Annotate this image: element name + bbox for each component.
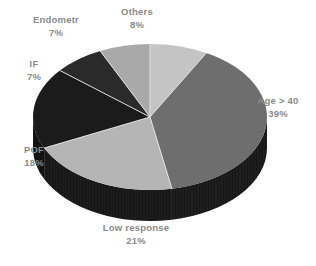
pie-label-age-over-40: Age > 40 39% (240, 95, 316, 120)
pie-label-if: IF 7% (0, 58, 70, 83)
pie-label-pof-percent: 18% (0, 157, 72, 170)
pie-label-low-response-name: Low response (84, 222, 188, 235)
pie-label-endometr: Endometr 7% (8, 14, 104, 39)
pie-label-others-percent: 8% (94, 19, 180, 32)
pie-label-pof-name: POF (0, 144, 72, 157)
pie-label-age-over-40-percent: 39% (240, 108, 316, 121)
pie-label-others: Others 8% (94, 6, 180, 31)
pie-label-age-over-40-name: Age > 40 (240, 95, 316, 108)
pie-label-if-percent: 7% (0, 71, 70, 84)
pie-label-endometr-percent: 7% (8, 27, 104, 40)
pie-label-low-response-percent: 21% (84, 235, 188, 248)
pie-label-others-name: Others (94, 6, 180, 19)
pie-label-if-name: IF (0, 58, 70, 71)
pie-chart: Endometr 7% Others 8% Age > 40 39% IF 7%… (0, 0, 316, 266)
pie-label-endometr-name: Endometr (8, 14, 104, 27)
pie-label-pof: POF 18% (0, 144, 72, 169)
pie-label-low-response: Low response 21% (84, 222, 188, 247)
